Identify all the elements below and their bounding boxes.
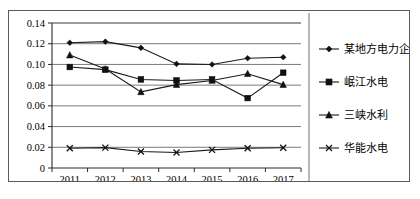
legend-item-x[interactable]: 华能水电 [319,141,388,155]
legend-item-diamond[interactable]: 某地方电力企业A [319,42,409,56]
y-tick-label: 0.02 [27,142,45,153]
series-diamond [67,39,286,67]
legend-label: 岷江水电 [344,76,388,89]
y-axis-ticks [48,23,52,168]
legend-label: 某地方电力企业A [344,42,409,56]
y-tick-label: 0.12 [27,38,45,49]
line-chart: 00.020.040.060.080.100.120.14 2011201220… [9,11,409,181]
data-point-square [326,79,332,85]
x-tick-label: 2016 [237,174,258,181]
y-tick-label: 0.04 [27,121,46,132]
chart-legend: 某地方电力企业A岷江水电三峡水利华能水电 [309,13,409,181]
legend-item-triangle[interactable]: 三峡水利 [319,108,388,122]
x-tick-label: 2014 [166,174,188,181]
y-tick-label: 0 [40,163,45,174]
series-x [67,145,286,156]
data-point-diamond [209,62,215,68]
x-tick-label: 2015 [202,174,223,181]
legend-label: 三峡水利 [344,108,388,122]
data-point-diamond [280,54,286,60]
legend-label: 华能水电 [344,141,388,155]
x-tick-label: 2013 [130,174,151,181]
data-point-diamond [245,55,251,61]
y-tick-label: 0.06 [27,100,45,111]
data-point-diamond [326,46,332,52]
data-point-triangle [244,70,250,76]
series-layer [67,39,287,156]
x-tick-label: 2012 [95,174,116,181]
data-point-triangle [67,52,73,58]
chart-frame: 00.020.040.060.080.100.120.14 2011201220… [8,10,410,182]
x-tick-label: 2011 [59,174,80,181]
x-axis-ticks [52,168,301,172]
y-tick-label: 0.08 [27,80,45,91]
y-tick-label: 0.14 [27,18,46,29]
x-tick-label: 2017 [273,174,294,181]
data-point-square [245,95,251,101]
data-point-square [138,77,144,83]
data-point-square [67,64,73,70]
y-tick-label: 0.10 [27,59,45,70]
x-axis-tick-labels: 2011201220132014201520162017 [59,174,293,181]
axes [52,23,301,168]
data-point-diamond [174,61,180,67]
data-point-diamond [67,40,73,46]
legend-item-square[interactable]: 岷江水电 [319,76,388,89]
data-point-square [280,70,286,76]
y-axis-tick-labels: 00.020.040.060.080.100.120.14 [27,18,46,174]
data-point-diamond [138,45,144,51]
